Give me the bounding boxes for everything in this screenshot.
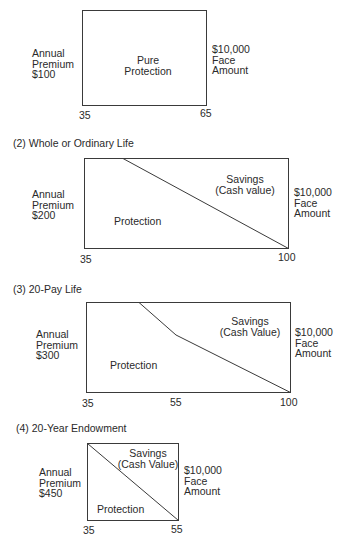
panel1-face-label: $10,000 Face Amount (212, 44, 250, 76)
panel1-premium-label: Annual Premium $100 (32, 48, 74, 80)
panel2-savings-label: Savings (Cash value) (210, 174, 280, 195)
label-line: $10,000 (294, 187, 332, 198)
panel2-tick-start: 35 (80, 254, 92, 265)
panel4-premium-label: Annual Premium $450 (39, 467, 81, 499)
label-line: Amount (184, 486, 222, 497)
label-line: Annual (39, 467, 81, 478)
panel2-face-label: $10,000 Face Amount (294, 187, 332, 219)
label-line: Annual (36, 329, 78, 340)
label-line: Amount (294, 208, 332, 219)
label-line: (Cash value) (210, 185, 280, 196)
label-line: Annual (32, 48, 74, 59)
panel3-tick-start: 35 (82, 398, 94, 409)
label-line: Amount (295, 348, 333, 359)
panel4-tick-end: 55 (171, 524, 183, 535)
label-line: Savings (210, 174, 280, 185)
panel4-tick-start: 35 (83, 525, 95, 536)
label-line: $10,000 (295, 327, 333, 338)
label-line: Savings (116, 448, 180, 459)
whole-life-box (85, 159, 289, 249)
panel3-protection-label: Protection (110, 360, 157, 371)
label-line: Annual (32, 189, 74, 200)
label-line: (Cash Value) (214, 327, 286, 338)
label-line: (Cash Value) (116, 459, 180, 470)
panel3-heading: (3) 20-Pay Life (13, 284, 82, 295)
panel2-tick-end: 100 (278, 252, 296, 263)
panel3-tick-end: 100 (280, 397, 298, 408)
label-line: $300 (36, 350, 78, 361)
panel2-heading: (2) Whole or Ordinary Life (13, 138, 134, 149)
label-line: $450 (39, 488, 81, 499)
panel2-protection-label: Protection (114, 216, 161, 227)
panel4-heading: (4) 20-Year Endowment (16, 423, 127, 434)
panel4-face-label: $10,000 Face Amount (184, 465, 222, 497)
panel1-tick-start: 35 (79, 110, 91, 121)
label-line: Savings (214, 316, 286, 327)
panel4-protection-label: Protection (97, 504, 144, 515)
panel1-tick-end: 65 (200, 108, 212, 119)
panel3-savings-label: Savings (Cash Value) (214, 316, 286, 337)
panel1-region-label: Pure Protection (112, 55, 184, 76)
label-line: Pure (112, 55, 184, 66)
label-line: $10,000 (212, 44, 250, 55)
panel3-premium-label: Annual Premium $300 (36, 329, 78, 361)
panel3-face-label: $10,000 Face Amount (295, 327, 333, 359)
label-line: Amount (212, 65, 250, 76)
panel2-premium-label: Annual Premium $200 (32, 189, 74, 221)
label-line: $200 (32, 210, 74, 221)
panel3-tick-mid: 55 (170, 397, 182, 408)
panel4-savings-label: Savings (Cash Value) (116, 448, 180, 469)
label-line: $10,000 (184, 465, 222, 476)
whole-life-savings-line (123, 159, 289, 249)
label-line: $100 (32, 69, 74, 80)
label-line: Protection (112, 66, 184, 77)
